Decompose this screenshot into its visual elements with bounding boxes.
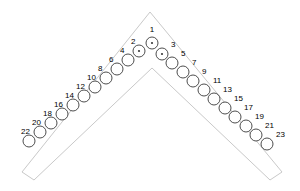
hole-label-15: 15 <box>234 94 243 103</box>
hole-label-23: 23 <box>276 130 285 139</box>
hole-circle-17[interactable] <box>229 111 241 123</box>
hole-label-11: 11 <box>213 76 222 85</box>
hole-circle-10[interactable] <box>89 81 101 93</box>
hole-label-3: 3 <box>171 40 176 49</box>
hole-label-5: 5 <box>181 49 186 58</box>
hole-label-4: 4 <box>120 46 125 55</box>
hole-label-18: 18 <box>43 109 52 118</box>
hole-label-22: 22 <box>21 127 30 136</box>
hole-circle-13[interactable] <box>208 93 220 105</box>
hole-label-16: 16 <box>54 100 63 109</box>
diagram-canvas: 1234567891011121314151617181920212223 <box>0 0 300 191</box>
hole-circle-9[interactable] <box>187 75 199 87</box>
hole-circle-7[interactable] <box>177 66 189 78</box>
hole-label-1: 1 <box>150 25 155 34</box>
hole-circle-21[interactable] <box>250 129 262 141</box>
hole-label-13: 13 <box>223 85 232 94</box>
hole-circle-4[interactable] <box>122 54 134 66</box>
hole-label-21: 21 <box>265 121 274 130</box>
hole-center-dot-3 <box>161 53 163 55</box>
hole-label-19: 19 <box>255 112 264 121</box>
hole-label-14: 14 <box>65 91 74 100</box>
hole-circle-14[interactable] <box>67 99 79 111</box>
hole-label-9: 9 <box>202 67 207 76</box>
hole-center-dot-2 <box>138 50 140 52</box>
hole-circle-19[interactable] <box>240 120 252 132</box>
hole-circle-20[interactable] <box>34 126 46 138</box>
hole-circle-11[interactable] <box>198 84 210 96</box>
hole-label-8: 8 <box>98 64 103 73</box>
hole-circle-23[interactable] <box>261 138 273 150</box>
hole-label-6: 6 <box>109 55 114 64</box>
hole-label-10: 10 <box>87 73 96 82</box>
hole-center-dot-1 <box>151 42 153 44</box>
hole-label-20: 20 <box>32 118 41 127</box>
hole-label-12: 12 <box>76 82 85 91</box>
hole-circle-15[interactable] <box>219 102 231 114</box>
hole-circle-22[interactable] <box>23 135 35 147</box>
hole-label-17: 17 <box>244 103 253 112</box>
hole-circle-12[interactable] <box>78 90 90 102</box>
chevron-diagram: 1234567891011121314151617181920212223 <box>0 0 300 191</box>
hole-circle-6[interactable] <box>111 63 123 75</box>
hole-circle-18[interactable] <box>45 117 57 129</box>
hole-circle-16[interactable] <box>56 108 68 120</box>
hole-circle-5[interactable] <box>166 57 178 69</box>
hole-label-7: 7 <box>192 58 197 67</box>
hole-circle-8[interactable] <box>100 72 112 84</box>
hole-label-2: 2 <box>131 37 136 46</box>
